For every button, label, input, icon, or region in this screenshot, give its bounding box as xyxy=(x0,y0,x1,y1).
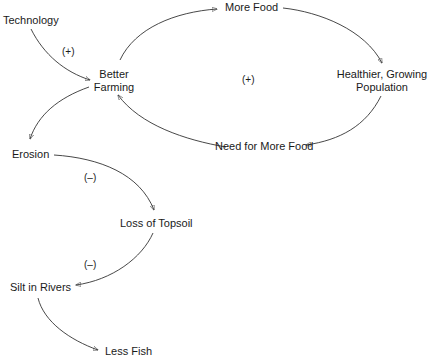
causal-loop-diagram: Technology Better Farming More Food Heal… xyxy=(0,0,430,361)
node-more-food: More Food xyxy=(225,1,278,14)
node-healthier-line1: Healthier, Growing xyxy=(336,68,428,81)
edge-technology-to-better-farming xyxy=(31,29,90,80)
edge-silt-rivers-to-less-fish xyxy=(38,298,98,350)
polarity-sign-loop: (+) xyxy=(242,74,255,86)
node-silt-in-rivers: Silt in Rivers xyxy=(10,281,71,294)
node-better-farming-line2: Farming xyxy=(92,81,136,94)
node-technology: Technology xyxy=(3,14,59,27)
node-less-fish: Less Fish xyxy=(105,345,152,358)
edge-better-farming-to-erosion xyxy=(30,87,89,139)
node-loss-of-topsoil: Loss of Topsoil xyxy=(120,217,193,230)
node-healthier-growing-population: Healthier, Growing Population xyxy=(336,68,428,94)
node-erosion: Erosion xyxy=(12,148,49,161)
edge-more-food-to-healthier xyxy=(283,8,382,63)
edge-better-farming-to-more-food xyxy=(120,9,217,60)
polarity-sign-erosion: (–) xyxy=(84,172,96,184)
node-need-for-more-food: Need for More Food xyxy=(215,140,313,153)
edge-erosion-to-loss-topsoil xyxy=(54,155,154,210)
polarity-sign-topsoil: (–) xyxy=(84,259,96,271)
node-better-farming-line1: Better xyxy=(92,68,136,81)
edge-need-more-food-to-better-farming xyxy=(118,95,226,147)
edge-healthier-to-need-more-food xyxy=(306,96,381,145)
node-better-farming: Better Farming xyxy=(92,68,136,94)
polarity-sign-technology: (+) xyxy=(62,46,75,58)
node-healthier-line2: Population xyxy=(336,81,428,94)
